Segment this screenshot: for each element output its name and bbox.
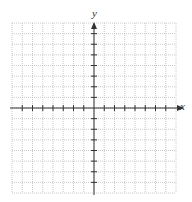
x-axis-label: x [180,101,185,112]
coordinate-plane [0,0,192,202]
y-axis-label: y [92,8,97,19]
axes [10,22,184,195]
